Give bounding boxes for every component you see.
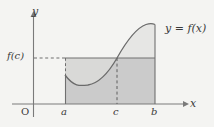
curve-label: y = f(x) — [165, 23, 206, 34]
integral-mvt-figure: y x O a c b f(c) y = f(x) — [0, 0, 214, 127]
origin-label: O — [21, 107, 29, 117]
x-axis-arrowhead — [183, 101, 189, 107]
tick-label-b: b — [151, 107, 157, 117]
y-axis-label: y — [32, 6, 38, 17]
tick-label-a: a — [61, 107, 67, 117]
figure-canvas — [0, 0, 214, 127]
x-axis-label: x — [190, 98, 196, 109]
tick-label-f-of-c: f(c) — [7, 51, 24, 61]
tick-label-c: c — [113, 107, 119, 117]
